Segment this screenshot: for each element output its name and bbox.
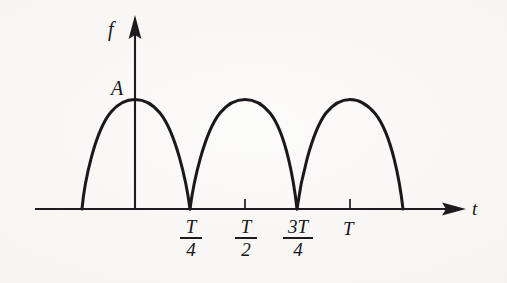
amplitude-label: A — [111, 78, 123, 98]
tick-label-t-over-2-denominator: 2 — [233, 239, 259, 259]
tick-label-3t-over-4-denominator: 4 — [281, 239, 315, 259]
tick-label-t-over-4: T 4 — [178, 217, 204, 259]
f-axis-group — [129, 15, 142, 209]
tick-label-T: T — [343, 219, 354, 238]
y-axis-label: f — [108, 19, 114, 39]
tick-marks-group — [190, 199, 350, 209]
tick-label-3t-over-4: 3T 4 — [281, 217, 315, 259]
rectified-sine-curve — [82, 100, 403, 210]
tick-label-t-over-2-numerator: T — [233, 217, 259, 237]
tick-label-t-over-4-numerator: T — [178, 217, 204, 237]
x-axis-label: t — [472, 199, 477, 218]
figure-container: f A t T 4 T 2 3T 4 T — [0, 0, 507, 283]
arch-2 — [190, 100, 297, 210]
tick-label-t-over-2: T 2 — [233, 217, 259, 259]
tick-label-t-over-4-denominator: 4 — [178, 239, 204, 259]
arch-3 — [297, 100, 403, 210]
tick-label-3t-over-4-numerator: 3T — [281, 217, 315, 237]
